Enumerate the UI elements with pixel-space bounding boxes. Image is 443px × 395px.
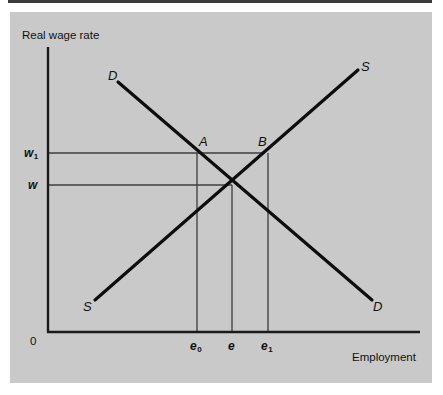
employment-tick-e1-text: e <box>261 339 268 353</box>
employment-tick-e1: e1 <box>261 340 272 352</box>
wage-tick-w-text: w <box>28 178 37 192</box>
wage-tick-w1-text: w <box>24 146 33 160</box>
employment-tick-e1-subscript: 1 <box>268 345 272 354</box>
wage-tick-w1: w1 <box>24 147 38 159</box>
labour-market-plot <box>0 0 443 395</box>
employment-tick-e0-text: e <box>190 339 197 353</box>
employment-tick-e: e <box>228 340 235 352</box>
employment-tick-e0-subscript: 0 <box>197 345 201 354</box>
employment-tick-e0: e0 <box>190 340 201 352</box>
demand-curve <box>118 82 372 300</box>
demand-curve-label-bottom: D <box>373 300 382 313</box>
figure-page: Real wage rate Employment 0 w1 w e0 e e1… <box>0 0 443 395</box>
wage-tick-w: w <box>28 179 37 191</box>
demand-curve-label-top: D <box>108 69 117 82</box>
y-axis-title: Real wage rate <box>22 30 99 42</box>
supply-curve-label-top: S <box>361 60 370 73</box>
point-label-a: A <box>199 135 208 148</box>
employment-tick-e-text: e <box>228 339 235 353</box>
point-label-b: B <box>258 135 267 148</box>
x-axis-title: Employment <box>352 352 416 364</box>
wage-tick-w1-subscript: 1 <box>34 152 38 161</box>
supply-curve-label-bottom: S <box>83 300 92 313</box>
origin-label: 0 <box>30 336 36 348</box>
